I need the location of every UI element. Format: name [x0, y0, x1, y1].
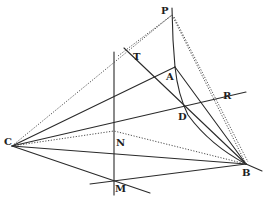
solid-lines	[12, 8, 262, 195]
label-R: R	[223, 90, 232, 101]
line-P-A	[172, 8, 175, 67]
label-A: A	[165, 71, 174, 82]
dotted-P-B-1	[172, 15, 246, 164]
label-T: T	[133, 51, 141, 62]
line-C-M	[12, 146, 150, 193]
geometric-diagram: P T A R D C N B M	[0, 0, 272, 200]
label-P: P	[161, 5, 169, 16]
label-N: N	[116, 137, 125, 148]
label-D: D	[178, 111, 187, 122]
line-C-B	[12, 146, 246, 164]
dotted-C-N-B	[12, 131, 246, 164]
label-M: M	[115, 183, 126, 194]
line-M-B	[90, 164, 246, 184]
label-B: B	[242, 167, 250, 178]
line-C-D-R	[12, 92, 246, 146]
label-C: C	[4, 136, 12, 147]
